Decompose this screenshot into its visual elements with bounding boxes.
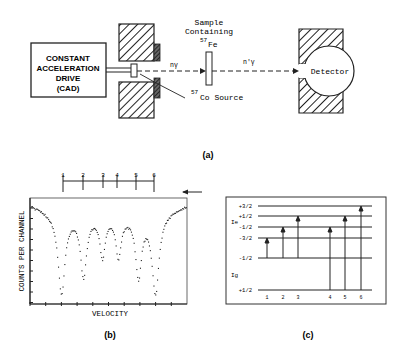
cad-label-line1: CONSTANT — [46, 54, 90, 63]
svg-text:+1/2: +1/2 — [239, 287, 252, 294]
svg-text:+3/2: +3/2 — [239, 203, 252, 210]
sample-label-line1: Sample — [195, 18, 224, 27]
svg-text:-3/2: -3/2 — [239, 235, 252, 242]
cad-label-line4: (CAD) — [57, 84, 80, 93]
svg-text:2: 2 — [81, 172, 85, 179]
beam-in-label: nγ — [170, 62, 178, 69]
source-isotope-mass: 57 — [191, 89, 199, 96]
svg-text:-1/2: -1/2 — [239, 255, 252, 262]
svg-text:5: 5 — [343, 295, 346, 301]
caption-b: (b) — [104, 330, 116, 340]
ground-state-label: Ig — [231, 272, 239, 279]
sample-isotope-symbol: Fe — [208, 40, 218, 49]
svg-text:4: 4 — [328, 295, 331, 301]
panel-c-energy-levels: +3/2 +1/2 -1/2 -3/2 -1/2 +1/2 Ie Ig 1 2 … — [226, 197, 386, 340]
svg-text:+1/2: +1/2 — [239, 213, 252, 220]
caption-c: (c) — [303, 330, 314, 340]
beam-out-label: n'γ — [243, 59, 255, 66]
cad-label-line3: DRIVE — [56, 74, 81, 83]
svg-text:6: 6 — [152, 172, 156, 179]
x-axis-label: VELOCITY — [92, 310, 129, 318]
source-label: Co Source — [200, 93, 243, 102]
svg-text:1: 1 — [61, 172, 65, 179]
svg-text:6: 6 — [359, 295, 362, 301]
cad-label-line2: ACCELERATION — [37, 64, 100, 73]
panel-a-apparatus: CONSTANT ACCELERATION DRIVE (CAD) 57 Co … — [31, 18, 354, 160]
line-markers: 1 2 3 4 5 6 — [61, 172, 156, 192]
excited-state-label: Ie — [231, 219, 239, 226]
svg-text:2: 2 — [281, 295, 284, 301]
panel-b-spectrum: 1 2 3 4 5 6 COUNTS PER CHANNEL VELOCITY … — [18, 172, 202, 340]
collimator-top — [119, 24, 154, 61]
plot-frame — [30, 198, 187, 304]
sample-absorber — [206, 52, 212, 85]
svg-text:5: 5 — [134, 172, 138, 179]
y-axis-label: COUNTS PER CHANNEL — [18, 210, 26, 292]
sample-label-line2: Containing — [185, 27, 233, 36]
svg-text:3: 3 — [296, 295, 299, 301]
svg-text:-1/2: -1/2 — [239, 224, 252, 231]
collimator-bottom — [119, 82, 154, 118]
source-holder — [131, 64, 137, 77]
svg-text:3: 3 — [101, 172, 105, 179]
svg-text:4: 4 — [115, 172, 119, 179]
svg-text:1: 1 — [265, 295, 268, 301]
mossbauer-figure: CONSTANT ACCELERATION DRIVE (CAD) 57 Co … — [0, 0, 403, 353]
detector-label: Detector — [311, 67, 350, 76]
spectrum-data-points — [31, 206, 187, 295]
caption-a: (a) — [203, 150, 214, 160]
sample-isotope-mass: 57 — [200, 37, 208, 44]
